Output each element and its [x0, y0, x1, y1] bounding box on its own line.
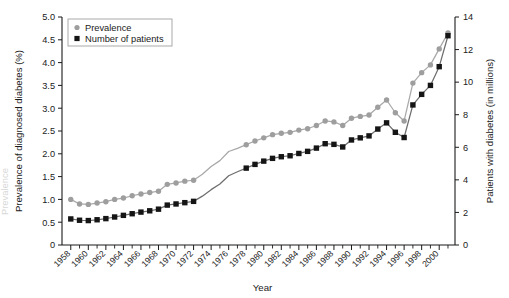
data-point-patients — [296, 151, 301, 156]
data-point-patients — [287, 153, 292, 158]
y-axis-left-tick-label: 3.0 — [42, 104, 55, 114]
data-point-patients — [305, 149, 310, 154]
x-axis-tick-label: 1998 — [402, 248, 423, 269]
y-axis-left-tick-label: 0 — [50, 240, 55, 250]
series-line-patients — [71, 36, 448, 221]
data-point-prevalence — [410, 80, 415, 85]
x-axis-tick-label: 1980 — [245, 248, 266, 269]
x-axis-tick-label: 1976 — [209, 248, 230, 269]
data-point-patients — [375, 126, 380, 131]
data-point-prevalence — [384, 97, 389, 102]
data-point-prevalence — [191, 178, 196, 183]
data-point-patients — [393, 130, 398, 135]
data-point-prevalence — [314, 123, 319, 128]
data-point-prevalence — [94, 200, 99, 205]
data-point-prevalence — [401, 118, 406, 123]
data-point-prevalence — [129, 193, 134, 198]
data-point-patients — [156, 206, 161, 211]
data-point-prevalence — [358, 114, 363, 119]
data-point-prevalence — [437, 46, 442, 51]
chart-figure: Prevalence00.51.01.52.02.53.03.54.04.55.… — [0, 0, 509, 298]
data-point-prevalence — [287, 130, 292, 135]
y-axis-right-tick-label: 6 — [463, 143, 468, 153]
data-point-patients — [138, 209, 143, 214]
data-point-patients — [410, 102, 415, 107]
data-point-prevalence — [375, 105, 380, 110]
x-axis-tick-label: 1982 — [262, 248, 283, 269]
x-axis-tick-label: 1972 — [174, 248, 195, 269]
data-point-prevalence — [68, 197, 73, 202]
data-point-patients — [437, 64, 442, 69]
data-point-prevalence — [261, 135, 266, 140]
x-axis-tick-label: 1990 — [332, 248, 353, 269]
data-point-patients — [358, 135, 363, 140]
data-point-patients — [445, 33, 450, 38]
data-point-prevalence — [270, 132, 275, 137]
data-point-patients — [401, 135, 406, 140]
data-point-prevalence — [349, 116, 354, 121]
data-point-patients — [279, 154, 284, 159]
data-point-patients — [366, 133, 371, 138]
data-point-prevalence — [165, 182, 170, 187]
data-point-patients — [77, 218, 82, 223]
data-point-prevalence — [156, 188, 161, 193]
y-axis-right-tick-label: 10 — [463, 77, 473, 87]
x-axis-tick-label: 1960 — [69, 248, 90, 269]
x-axis-tick-label: 1996 — [385, 248, 406, 269]
x-axis-tick-label: 1994 — [367, 248, 388, 269]
diabetes-trend-chart: Prevalence00.51.01.52.02.53.03.54.04.55.… — [0, 0, 509, 298]
data-point-prevalence — [305, 126, 310, 131]
data-point-prevalence — [322, 118, 327, 123]
data-point-patients — [173, 201, 178, 206]
x-axis-tick-label: 1962 — [87, 248, 108, 269]
data-point-patients — [322, 141, 327, 146]
data-point-patients — [165, 202, 170, 207]
x-axis-tick-label: 1968 — [139, 248, 160, 269]
y-axis-right-tick-label: 2 — [463, 208, 468, 218]
y-axis-left-tick-label: 3.5 — [42, 81, 55, 91]
data-point-prevalence — [366, 112, 371, 117]
data-point-patients — [428, 83, 433, 88]
data-point-prevalence — [77, 201, 82, 206]
y-axis-left-tick-label: 1.5 — [42, 172, 55, 182]
x-axis-tick-label: 1970 — [157, 248, 178, 269]
data-point-patients — [261, 158, 266, 163]
data-point-patients — [103, 216, 108, 221]
y-axis-right-tick-label: 0 — [463, 240, 468, 250]
data-point-patients — [340, 144, 345, 149]
data-point-patients — [121, 213, 126, 218]
series-line-prevalence — [71, 33, 448, 204]
data-point-patients — [419, 92, 424, 97]
data-point-patients — [112, 214, 117, 219]
legend-label: Prevalence — [85, 23, 132, 33]
y-axis-left-tick-label: 2.5 — [42, 126, 55, 136]
data-point-prevalence — [393, 110, 398, 115]
x-axis-tick-label: 1958 — [52, 248, 73, 269]
y-axis-right-tick-label: 12 — [463, 45, 473, 55]
data-point-prevalence — [112, 197, 117, 202]
data-point-patients — [68, 216, 73, 221]
x-axis-tick-label: 1986 — [297, 248, 318, 269]
data-point-patients — [182, 200, 187, 205]
x-axis-tick-label: 2000 — [420, 248, 441, 269]
data-point-prevalence — [331, 119, 336, 124]
data-point-prevalence — [121, 195, 126, 200]
data-point-patients — [86, 218, 91, 223]
data-point-patients — [244, 165, 249, 170]
data-point-patients — [331, 142, 336, 147]
legend-marker-prevalence — [74, 25, 79, 30]
y-axis-left-tick-label: 5.0 — [42, 12, 55, 22]
data-point-prevalence — [296, 127, 301, 132]
data-point-patients — [349, 137, 354, 142]
y-axis-right-title: Patients with diabetes (in millions) — [484, 59, 495, 204]
data-point-prevalence — [173, 180, 178, 185]
data-point-patients — [94, 217, 99, 222]
data-point-patients — [191, 199, 196, 204]
data-point-patients — [270, 156, 275, 161]
data-point-patients — [314, 145, 319, 150]
data-point-prevalence — [340, 123, 345, 128]
y-axis-left-tick-label: 0.5 — [42, 218, 55, 228]
x-axis-tick-label: 1978 — [227, 248, 248, 269]
edge-artifact-text: Prevalence — [0, 168, 10, 215]
x-axis-tick-label: 1988 — [315, 248, 336, 269]
